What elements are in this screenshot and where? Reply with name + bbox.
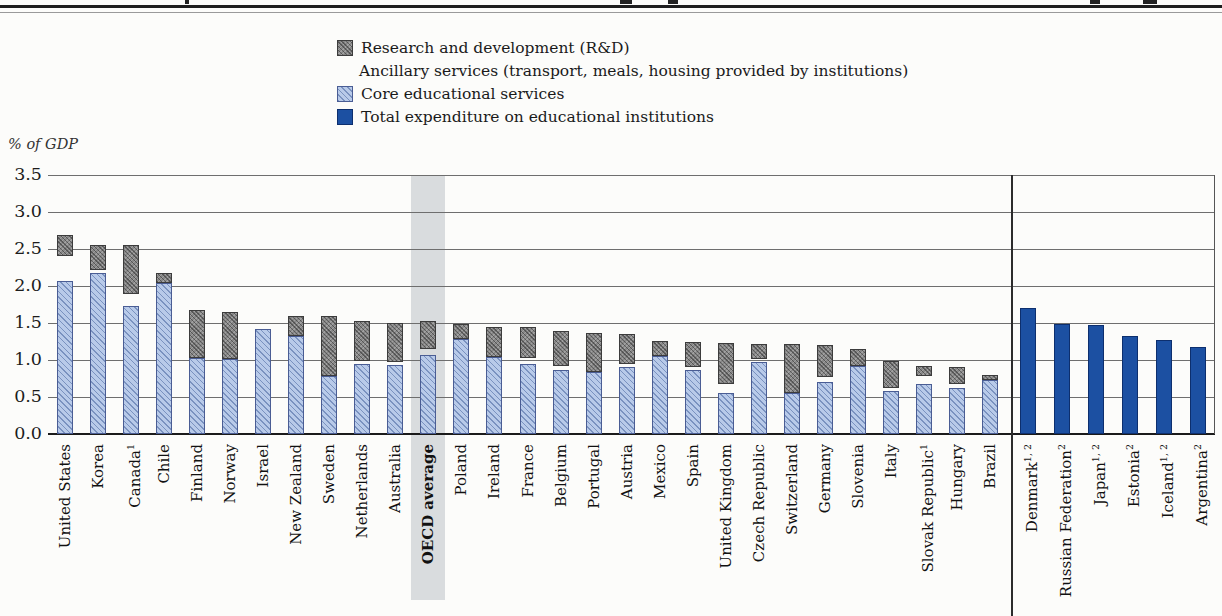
- segment-core-united-states: [57, 281, 73, 434]
- segment-ancillary-canada: [123, 294, 139, 306]
- legend-label: Ancillary services (transport, meals, ho…: [359, 62, 908, 80]
- segment-rnd-korea: [90, 245, 106, 269]
- segment-rnd-new-zealand: [288, 316, 304, 336]
- category-label-netherlands: Netherlands: [353, 444, 371, 538]
- bar-united-states: [57, 235, 73, 434]
- category-label-chile: Chile: [155, 444, 173, 484]
- segment-core-poland: [453, 339, 469, 434]
- segment-core-netherlands: [354, 364, 370, 434]
- segment-rnd-netherlands: [354, 321, 370, 362]
- category-label-austria: Austria: [618, 444, 636, 499]
- segment-core-czech-republic: [751, 362, 767, 434]
- cropped-title-remnant: [668, 0, 678, 4]
- bar-mexico: [652, 341, 668, 434]
- segment-rnd-mexico: [652, 341, 668, 357]
- category-label-korea: Korea: [89, 444, 107, 489]
- bar-canada: [123, 245, 139, 434]
- bar-spain: [685, 342, 701, 434]
- segment-core-spain: [685, 370, 701, 434]
- segment-rnd-sweden: [321, 316, 337, 377]
- segment-core-slovenia: [850, 366, 866, 434]
- segment-rnd-chile: [156, 273, 172, 283]
- category-label-australia: Australia: [386, 444, 404, 513]
- segment-core-ireland: [486, 357, 502, 434]
- bar-germany: [817, 345, 833, 434]
- segment-rnd-czech-republic: [751, 344, 767, 360]
- segment-rnd-portugal: [586, 333, 602, 372]
- category-label-italy: Italy: [882, 444, 900, 478]
- legend-item-core: Core educational services: [337, 82, 908, 105]
- bar-russian-federation: [1054, 324, 1070, 434]
- top-rule-thin: [0, 12, 1222, 13]
- y-tick-label: 2.0: [6, 275, 42, 295]
- segment-core-belgium: [553, 370, 569, 434]
- segment-rnd-slovenia: [850, 349, 866, 366]
- category-label-mexico: Mexico: [651, 444, 669, 499]
- segment-ancillary-slovak-republic: [916, 376, 932, 384]
- segment-core-sweden: [321, 376, 337, 434]
- gridline: [48, 175, 1215, 176]
- bar-france: [520, 327, 536, 434]
- expenditure-chart-figure: Research and development (R&D)Ancillary …: [0, 0, 1222, 616]
- category-label-new-zealand: New Zealand: [287, 444, 305, 545]
- segment-ancillary-united-states: [57, 256, 73, 281]
- bar-oecd-average: [420, 321, 436, 434]
- legend-swatch-ancillary: [337, 64, 351, 78]
- segment-rnd-australia: [387, 323, 403, 361]
- bar-norway: [222, 312, 238, 434]
- segment-core-new-zealand: [288, 336, 304, 434]
- footnote-marker: 2: [1192, 444, 1203, 450]
- bar-slovenia: [850, 349, 866, 434]
- segment-core-canada: [123, 306, 139, 434]
- bar-czech-republic: [751, 344, 767, 434]
- category-label-poland: Poland: [452, 444, 470, 496]
- bar-hungary: [949, 367, 965, 434]
- legend-label: Research and development (R&D): [361, 39, 630, 57]
- footnote-marker: 2: [1056, 444, 1067, 450]
- segment-total-iceland: [1156, 340, 1172, 434]
- segment-core-hungary: [949, 388, 965, 434]
- segment-core-slovak-republic: [916, 384, 932, 434]
- footnote-marker: 1: [918, 444, 929, 450]
- y-tick-label: 1.0: [6, 349, 42, 369]
- legend-item-rnd: Research and development (R&D): [337, 36, 908, 59]
- segment-rnd-ireland: [486, 327, 502, 357]
- bar-estonia: [1122, 336, 1138, 434]
- bar-slovak-republic: [916, 366, 932, 434]
- legend-swatch-core: [337, 86, 353, 102]
- bar-ireland: [486, 327, 502, 434]
- bar-united-kingdom: [718, 343, 734, 434]
- bar-iceland: [1156, 340, 1172, 434]
- category-label-switzerland: Switzerland: [783, 444, 801, 535]
- segment-rnd-italy: [883, 361, 899, 388]
- segment-core-israel: [255, 329, 271, 434]
- category-label-russian-federation: Russian Federation2: [1053, 444, 1075, 597]
- segment-rnd-austria: [619, 334, 635, 364]
- footnote-marker: 1: [125, 444, 136, 450]
- segment-core-switzerland: [784, 393, 800, 434]
- segment-rnd-poland: [453, 324, 469, 340]
- category-label-israel: Israel: [254, 444, 272, 487]
- segment-rnd-switzerland: [784, 344, 800, 393]
- category-label-iceland: Iceland1, 2: [1155, 444, 1177, 518]
- top-rule: [0, 5, 1222, 8]
- category-label-belgium: Belgium: [552, 444, 570, 507]
- segment-rnd-canada: [123, 245, 139, 294]
- bar-belgium: [553, 331, 569, 434]
- bar-portugal: [586, 333, 602, 434]
- segment-core-france: [520, 364, 536, 434]
- category-label-argentina: Argentina2: [1189, 444, 1211, 526]
- segment-total-japan: [1088, 325, 1104, 434]
- segment-rnd-united-kingdom: [718, 343, 734, 384]
- footnote-marker: 1, 2: [1022, 444, 1033, 462]
- category-label-estonia: Estonia2: [1121, 444, 1143, 507]
- segment-core-portugal: [586, 372, 602, 434]
- segment-ancillary-israel: [255, 312, 271, 329]
- segment-core-brazil: [982, 380, 998, 434]
- category-label-ireland: Ireland: [485, 444, 503, 499]
- segment-core-italy: [883, 391, 899, 434]
- category-label-czech-republic: Czech Republic: [750, 444, 768, 562]
- cropped-title-remnant: [1090, 0, 1100, 4]
- legend-swatch-total: [337, 109, 353, 125]
- category-label-finland: Finland: [188, 444, 206, 502]
